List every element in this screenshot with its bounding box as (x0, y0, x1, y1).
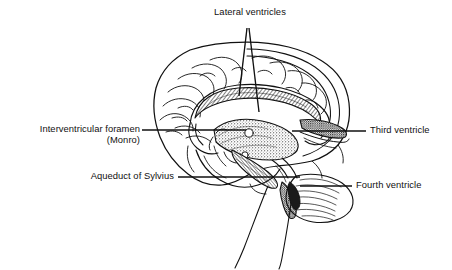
label-third-ventricle: Third ventricle (370, 124, 452, 136)
label-interventricular-foramen-line2: (Monro) (6, 134, 140, 146)
label-lateral-ventricles: Lateral ventricles (185, 6, 315, 18)
lateral-ventricles-left-pointer (239, 28, 247, 96)
cerebellum (286, 174, 353, 222)
label-fourth-ventricle: Fourth ventricle (356, 179, 450, 191)
brainstem (235, 182, 296, 269)
label-aqueduct-of-sylvius: Aqueduct of Sylvius (42, 170, 174, 182)
label-interventricular-foramen-line1: Interventricular foramen (6, 123, 140, 135)
occipital-horn (300, 119, 349, 148)
lateral-ventricles-right-pointer (249, 28, 259, 112)
brain-ventricles-figure: Lateral ventricles Interventricular fora… (0, 0, 452, 270)
third-ventricle-region (209, 119, 298, 163)
